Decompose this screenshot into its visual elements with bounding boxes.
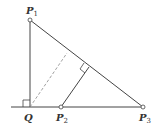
label-p1: P1 <box>25 5 38 18</box>
right-angle-marker-q <box>23 100 30 107</box>
geometry-diagram: P1 Q P2 P3 <box>0 0 157 127</box>
dashed-segment-from-q <box>30 53 67 107</box>
label-p2: P2 <box>55 112 68 125</box>
point-p3 <box>141 105 145 109</box>
right-angle-marker-hypotenuse <box>80 63 85 73</box>
point-p1 <box>28 18 32 22</box>
label-p3: P3 <box>138 112 151 125</box>
segment-p1-p3 <box>30 20 143 107</box>
label-q: Q <box>24 112 33 123</box>
point-p2 <box>59 105 63 109</box>
